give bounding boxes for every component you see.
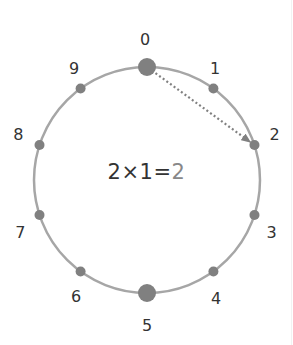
- label-6: 6: [71, 287, 81, 306]
- label-2: 2: [269, 125, 279, 144]
- label-3: 3: [266, 223, 276, 242]
- label-1: 1: [210, 59, 220, 78]
- equation: 2×1=2: [0, 160, 293, 184]
- point-0: [138, 58, 156, 76]
- point-8: [35, 140, 45, 150]
- point-3: [249, 210, 259, 220]
- point-7: [35, 210, 45, 220]
- point-9: [76, 84, 86, 94]
- point-2: [249, 140, 259, 150]
- point-1: [208, 84, 218, 94]
- point-5: [138, 284, 156, 302]
- label-8: 8: [13, 125, 23, 144]
- equation-lhs: 2×1=: [108, 160, 172, 184]
- label-0: 0: [140, 30, 150, 49]
- label-7: 7: [15, 223, 25, 242]
- label-9: 9: [69, 59, 79, 78]
- label-4: 4: [211, 289, 221, 308]
- point-6: [76, 266, 86, 276]
- label-5: 5: [142, 316, 152, 335]
- point-4: [208, 266, 218, 276]
- equation-result: 2: [172, 160, 186, 184]
